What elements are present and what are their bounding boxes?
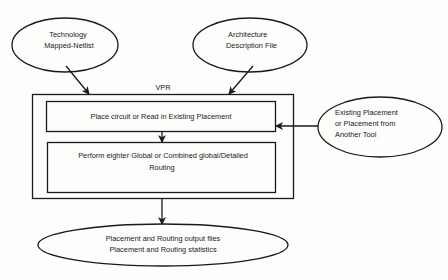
existing-placement-label-line-3: Another Tool: [335, 129, 376, 140]
vpr-title: VPR: [155, 82, 170, 93]
existing-placement-label-line-1: Existing Placement: [335, 107, 398, 118]
output-label-line-1: Placement and Routing output files: [106, 233, 221, 244]
technology-label-line-1: Technology: [49, 29, 86, 40]
route-step-label-line-2: Routing: [149, 162, 174, 173]
route-step-label-line-1: Perform eighter Global or Combined globa…: [78, 150, 248, 161]
existing-placement-label-line-2: or Placement from: [335, 118, 395, 129]
technology-label-line-2: Mapped-Netlist: [44, 40, 94, 51]
diagram-canvas: Technology Mapped-Netlist Architecture D…: [0, 0, 448, 280]
architecture-label-line-1: Architecture: [228, 29, 267, 40]
place-step-label: Place circuit or Read in Existing Placem…: [91, 111, 232, 122]
architecture-label-line-2: Description File: [226, 40, 277, 51]
output-label-line-2: Placement and Routing statistics: [109, 244, 216, 255]
